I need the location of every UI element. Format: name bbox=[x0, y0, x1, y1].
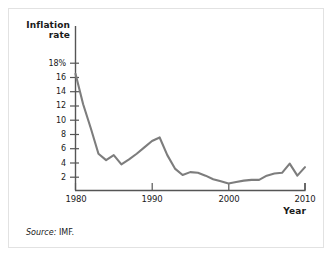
source-label: Source: bbox=[26, 228, 56, 237]
y-tick-label-10: 10 bbox=[26, 116, 66, 125]
x-tick-label-1990: 1990 bbox=[132, 194, 172, 204]
x-tick-label-2010: 2010 bbox=[285, 194, 325, 204]
y-axis-title: Inflationrate bbox=[10, 20, 70, 40]
chart-plot-area: Inflationrate 18% 16 14 12 10 8 6 4 2 19… bbox=[0, 0, 332, 262]
source-value: IMF. bbox=[59, 228, 74, 237]
figure-card: Inflationrate 18% 16 14 12 10 8 6 4 2 19… bbox=[0, 0, 332, 262]
x-tick-label-1980: 1980 bbox=[56, 194, 96, 204]
y-tick-label-16: 16 bbox=[26, 73, 66, 82]
source-note: Source: IMF. bbox=[26, 229, 74, 238]
y-tick-label-18: 18% bbox=[26, 59, 66, 68]
x-axis-ticks bbox=[76, 183, 306, 190]
y-tick-label-8: 8 bbox=[26, 130, 66, 139]
y-tick-label-12: 12 bbox=[26, 101, 66, 110]
chart-axes bbox=[75, 26, 306, 191]
y-tick-label-6: 6 bbox=[26, 144, 66, 153]
x-tick-label-2000: 2000 bbox=[209, 194, 249, 204]
y-axis-title-line1: Inflation bbox=[26, 20, 70, 30]
y-axis-title-line2: rate bbox=[49, 30, 70, 40]
y-tick-label-2: 2 bbox=[26, 173, 66, 182]
x-axis-title: Year bbox=[248, 206, 306, 216]
y-tick-label-14: 14 bbox=[26, 87, 66, 96]
y-tick-label-4: 4 bbox=[26, 159, 66, 168]
inflation-rate-series-line bbox=[76, 74, 306, 184]
